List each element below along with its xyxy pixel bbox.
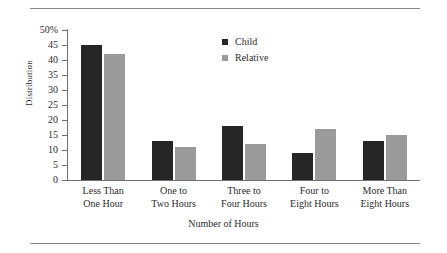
bar-group	[279, 30, 349, 180]
y-axis-tick-label: 5	[14, 160, 58, 170]
x-axis-tick-label-line: More Than	[341, 184, 429, 197]
bar-group	[350, 30, 420, 180]
legend-item[interactable]: Child	[222, 34, 268, 50]
legend-label: Relative	[235, 50, 268, 66]
x-axis-tick-label: More ThanEight Hours	[341, 184, 429, 210]
legend-item[interactable]: Relative	[222, 50, 268, 66]
bar-relative[interactable]	[104, 54, 125, 180]
y-axis-tick-label: 45	[14, 40, 58, 50]
x-axis-line	[67, 180, 420, 181]
y-axis-tick-label: 35	[14, 70, 58, 80]
y-axis-tick-label: 40	[14, 55, 58, 65]
y-axis-title: Distribution	[24, 18, 34, 148]
bar-relative[interactable]	[386, 135, 407, 180]
y-axis-tick-label: 25	[14, 100, 58, 110]
y-axis-tick-label: 50%	[14, 25, 58, 35]
bar-group	[68, 30, 138, 180]
y-axis-tick-label: 0	[14, 175, 58, 185]
bar-child[interactable]	[81, 45, 102, 180]
y-axis-tick-label: 15	[14, 130, 58, 140]
y-axis-tick-label: 20	[14, 115, 58, 125]
legend-swatch-icon	[222, 55, 228, 61]
figure-bottom-rule	[30, 243, 420, 244]
legend-label: Child	[235, 34, 257, 50]
bar-child[interactable]	[292, 153, 313, 180]
y-axis-tick-label: 10	[14, 145, 58, 155]
x-axis-tick-label-line: Eight Hours	[341, 197, 429, 210]
bar-child[interactable]	[222, 126, 243, 180]
figure-top-rule	[30, 8, 420, 9]
bar-group	[138, 30, 208, 180]
legend-swatch-icon	[222, 39, 228, 45]
bar-child[interactable]	[363, 141, 384, 180]
bar-relative[interactable]	[245, 144, 266, 180]
bar-relative[interactable]	[315, 129, 336, 180]
chart-figure: Distribution 50%454035302520151050 Less …	[0, 0, 447, 253]
y-axis-tick	[62, 180, 68, 181]
y-axis-tick-label: 30	[14, 85, 58, 95]
chart-legend: ChildRelative	[222, 34, 268, 66]
bar-relative[interactable]	[175, 147, 196, 180]
bar-child[interactable]	[152, 141, 173, 180]
x-axis-title: Number of Hours	[0, 218, 447, 229]
